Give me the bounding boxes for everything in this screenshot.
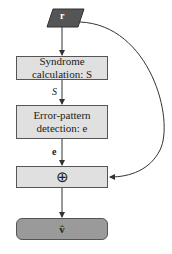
error-edge-label: e <box>52 146 56 157</box>
xor-icon: ⊕ <box>56 171 69 184</box>
input-node-shape <box>47 9 84 27</box>
error-line1: Error-pattern <box>33 109 90 122</box>
output-label: v̂ <box>59 223 65 236</box>
syndrome-line1: Syndrome <box>32 55 92 68</box>
adder-box: ⊕ <box>16 166 108 188</box>
error-line2: detection: e <box>33 122 90 135</box>
output-node: v̂ <box>16 218 108 240</box>
syndrome-line2: calculation: S <box>32 68 92 81</box>
input-label: r <box>60 10 64 21</box>
bypass-curve <box>80 22 164 177</box>
syndrome-edge-label: S <box>52 86 57 97</box>
syndrome-calculation-box: Syndromecalculation: S <box>16 56 108 80</box>
error-pattern-box: Error-patterndetection: e <box>16 105 108 139</box>
